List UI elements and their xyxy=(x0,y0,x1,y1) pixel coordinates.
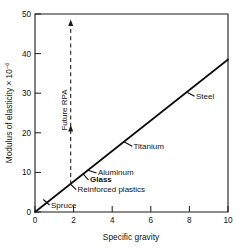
modulus-vs-specific-gravity-chart: 0 10 20 30 40 50 0 2 4 6 8 10 Specific g… xyxy=(0,0,245,251)
y-tick-label-30: 30 xyxy=(22,89,32,98)
future-rpa-marker: Future RPA xyxy=(60,19,73,184)
aluminum-leader-icon xyxy=(88,170,96,173)
y-axis-title: Modulus of elasticity × 10−6 xyxy=(4,63,14,164)
steel-leader-icon xyxy=(187,92,195,96)
y-axis-title-exponent: −6 xyxy=(4,63,10,69)
future-rpa-up-arrow-top-icon xyxy=(68,19,73,26)
future-rpa-label: Future RPA xyxy=(60,89,69,131)
x-tick-label-10: 10 xyxy=(223,216,233,225)
x-tick-label-0: 0 xyxy=(33,216,38,225)
reinforced-plastics-label: Reinforced plastics xyxy=(78,185,146,194)
future-rpa-label-group: Future RPA xyxy=(60,89,69,131)
y-tick-labels: 0 10 20 30 40 50 xyxy=(22,10,32,217)
x-axis-title: Specific gravity xyxy=(103,232,160,242)
x-tick-label-6: 6 xyxy=(149,216,154,225)
x-tick-labels: 0 2 4 6 8 10 xyxy=(33,216,233,225)
x-tick-label-8: 8 xyxy=(187,216,192,225)
y-tick-label-50: 50 xyxy=(22,10,32,19)
x-tick-label-4: 4 xyxy=(110,216,115,225)
chart-figure: 0 10 20 30 40 50 0 2 4 6 8 10 Specific g… xyxy=(0,0,245,251)
titanium-leader-icon xyxy=(124,142,133,146)
spruce-label: Spruce xyxy=(51,201,77,210)
glass-leader-icon xyxy=(83,174,88,180)
y-axis-ticks xyxy=(35,14,41,212)
reinforced-plastics-leader-icon xyxy=(71,184,77,189)
y-tick-label-10: 10 xyxy=(22,168,32,177)
y-axis-title-main: Modulus of elasticity × 10 xyxy=(4,69,14,164)
x-tick-label-2: 2 xyxy=(71,216,76,225)
steel-label: Steel xyxy=(196,92,214,101)
y-tick-label-20: 20 xyxy=(22,129,32,138)
y-axis-title-group: Modulus of elasticity × 10−6 xyxy=(4,63,14,164)
titanium-label: Titanium xyxy=(134,142,165,151)
y-tick-label-40: 40 xyxy=(22,50,32,59)
y-tick-label-0: 0 xyxy=(26,208,31,217)
aluminum-label: Aluminum xyxy=(98,168,134,177)
